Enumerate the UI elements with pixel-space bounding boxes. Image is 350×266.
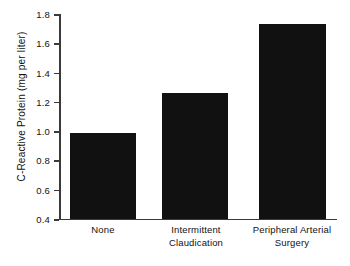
- y-tick-mark: [54, 219, 59, 221]
- x-axis-category-label: IntermittentClaudication: [148, 224, 244, 249]
- bar: [70, 133, 136, 219]
- x-axis-category-label-line: Surgery: [240, 237, 344, 250]
- x-axis-category-label-line: Claudication: [148, 237, 244, 250]
- x-axis-category-label-line: Intermittent: [148, 224, 244, 237]
- chart-figure: C-Reactive Protein (mg per liter) 0.40.6…: [0, 0, 350, 266]
- bars-container: [0, 14, 350, 219]
- bar: [162, 93, 228, 219]
- x-axis-category-label-line: Peripheral Arterial: [240, 224, 344, 237]
- x-axis-category-label-line: None: [58, 224, 148, 237]
- bar: [259, 24, 326, 219]
- x-axis-category-label: None: [58, 224, 148, 237]
- x-axis-category-label: Peripheral ArterialSurgery: [240, 224, 344, 249]
